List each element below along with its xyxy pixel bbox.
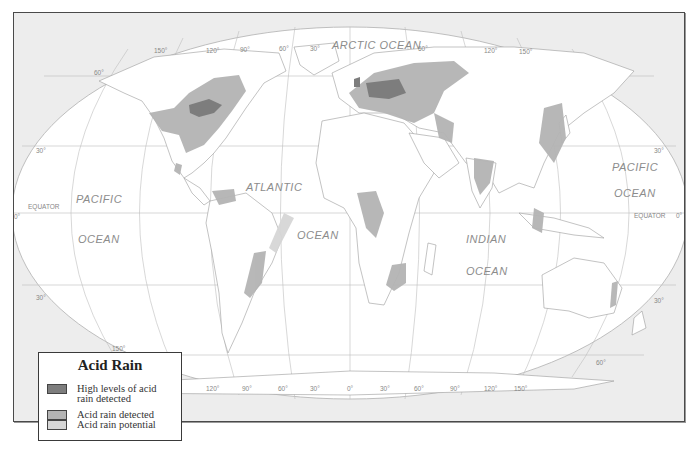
lon-label-top: 120° [206,47,220,54]
legend-label: rain detected [77,394,157,404]
ocean-label-pacific-west-1: PACIFIC [76,193,122,205]
lon-label-bottom: 150° [112,345,126,352]
legend-item-high: High levels of acid rain detected [47,384,157,404]
legend-title: Acid Rain [39,357,181,374]
lon-label-bottom: 120° [484,385,498,392]
lon-label-top: 60° [418,45,428,52]
equator-label-west: EQUATOR [28,203,60,211]
lat-label-30n-east: 30° [654,147,664,154]
legend-swatch-high [47,384,67,394]
ocean-label-arctic: ARCTIC OCEAN [331,39,421,51]
lon-label-bottom: 90° [242,385,252,392]
lon-label-bottom: 120° [206,385,220,392]
lon-label-top: 120° [484,47,498,54]
legend-item-potential: Acid rain potential [47,420,156,430]
lon-label-bottom: 30° [380,385,390,392]
lon-label-bottom: 0° [347,385,354,392]
ocean-label-pacific-west-2: OCEAN [78,233,120,245]
lat-label-0-west: 0° [14,213,21,220]
new-zealand [632,311,646,335]
ocean-label-pacific-east-2: OCEAN [614,187,656,199]
lat-label-30s-west: 30° [36,294,46,301]
lat-label-60n: 60° [94,69,104,76]
lon-label-bottom: 90° [450,385,460,392]
ocean-label-atlantic-2: OCEAN [297,229,339,241]
map-legend: Acid Rain High levels of acid rain detec… [38,352,182,441]
lat-label-30s-east: 30° [654,297,664,304]
lon-label-top: 150° [154,47,168,54]
lon-label-top: 150° [519,48,533,55]
legend-swatch-potential [47,420,67,430]
lon-label-top: 30° [310,45,320,52]
lat-label-0-east: 0° [676,212,683,219]
lon-label-top: 90° [240,46,250,53]
ocean-label-pacific-east-1: PACIFIC [612,161,658,173]
ocean-label-indian-2: OCEAN [466,265,508,277]
lon-label-bottom: 30° [310,385,320,392]
ocean-label-atlantic-1: ATLANTIC [245,181,302,193]
lat-label-60s: 60° [596,359,606,366]
ocean-label-indian-1: INDIAN [466,233,506,245]
legend-label: Acid rain potential [77,420,156,430]
legend-swatch-detected [47,410,67,420]
lon-label-bottom: 60° [278,385,288,392]
lat-label-30n-west: 30° [36,147,46,154]
lon-label-top: 60° [279,45,289,52]
lon-label-bottom: 150° [514,385,528,392]
lon-label-bottom: 60° [414,385,424,392]
equator-label-east: EQUATOR [634,212,666,220]
